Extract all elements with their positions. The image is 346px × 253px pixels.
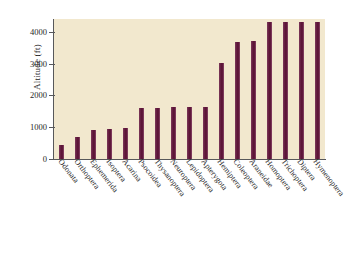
y-axis-tick-labels: 01000200030004000	[0, 0, 47, 253]
x-axis-tick-labels: OdonataOrthopteraEphemeridaIsopteraAcari…	[54, 160, 341, 253]
bar	[283, 22, 288, 159]
bar	[251, 41, 256, 159]
bar	[155, 108, 160, 159]
y-axis-tick	[49, 32, 55, 33]
bar	[171, 107, 176, 159]
bar	[123, 128, 128, 159]
bar	[75, 137, 80, 159]
y-axis-tick	[49, 127, 55, 128]
bar	[299, 22, 304, 159]
bar	[187, 107, 192, 159]
y-axis-tick	[49, 159, 55, 160]
y-axis-tick-label: 3000	[3, 59, 47, 69]
bar	[235, 42, 240, 159]
y-axis-tick-label: 0	[3, 154, 47, 164]
bar-series	[54, 19, 325, 159]
bar	[91, 130, 96, 159]
bar	[219, 63, 224, 159]
y-axis-tick-label: 1000	[3, 122, 47, 132]
y-axis-tick	[49, 64, 55, 65]
bar	[315, 22, 320, 159]
y-axis-tick-label: 4000	[3, 27, 47, 37]
y-axis-tick-label: 2000	[3, 90, 47, 100]
bar	[203, 107, 208, 159]
bar	[107, 129, 112, 159]
bar	[267, 22, 272, 159]
bar	[139, 108, 144, 159]
y-axis-tick	[49, 95, 55, 96]
